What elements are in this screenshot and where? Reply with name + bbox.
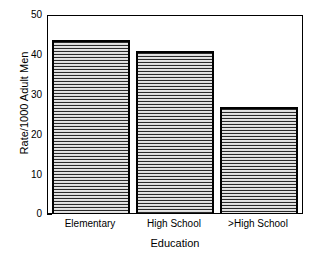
x-tick-label: High School <box>135 218 213 230</box>
y-tick-label: 40 <box>24 50 42 60</box>
plot-frame <box>47 15 303 214</box>
y-axis-tick-labels: 50 40 30 20 10 0 <box>24 0 42 261</box>
x-axis-title: Education <box>47 236 303 250</box>
bar-elementary[interactable] <box>52 40 130 213</box>
plot-area <box>48 16 302 213</box>
y-tick-label: 30 <box>24 90 42 100</box>
bar-high-school[interactable] <box>136 51 214 213</box>
bar-chart-figure: Rate/1000 Adult Men 50 40 30 20 10 0 Ele… <box>0 0 327 261</box>
bar-above-high-school[interactable] <box>220 107 298 213</box>
x-axis-tick-labels: Elementary High School >High School <box>47 218 303 232</box>
y-tick-label: 50 <box>24 10 42 20</box>
x-tick-label: >High School <box>219 218 297 230</box>
y-tick-mark <box>47 214 52 215</box>
y-tick-label: 10 <box>24 170 42 180</box>
y-tick-label: 0 <box>24 209 42 219</box>
x-tick-label: Elementary <box>51 218 129 230</box>
y-tick-label: 20 <box>24 130 42 140</box>
